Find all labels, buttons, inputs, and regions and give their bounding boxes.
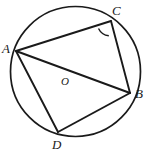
geometry-canvas: [0, 0, 153, 155]
angle-ACB-arc: [99, 29, 109, 36]
circumscribed-circle: [11, 7, 141, 137]
center-label-O: O: [61, 76, 69, 87]
segment-AB: [16, 51, 130, 93]
vertex-label-B: B: [135, 87, 143, 100]
vertex-label-C: C: [112, 4, 121, 17]
segment-DB: [58, 93, 130, 132]
geometry-figure: A C B D O: [0, 0, 153, 155]
vertex-label-D: D: [52, 138, 61, 151]
vertex-label-A: A: [2, 42, 10, 55]
